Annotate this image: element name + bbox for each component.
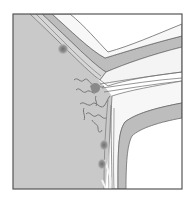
nodule-3 <box>97 158 107 170</box>
nodule-1 <box>57 43 69 55</box>
nodule-2 <box>99 139 109 151</box>
anatomical-diagram <box>0 0 191 198</box>
